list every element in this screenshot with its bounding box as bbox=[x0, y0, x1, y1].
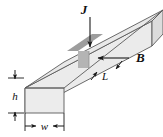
height-label: h bbox=[12, 90, 18, 102]
shaded-slab-front-face bbox=[78, 51, 89, 68]
bar-near-end-face bbox=[25, 88, 64, 113]
magnetic-field-label: B bbox=[135, 50, 145, 65]
hall-effect-figure: J B L h bbox=[0, 0, 163, 137]
current-density-label: J bbox=[80, 2, 88, 17]
length-label: L bbox=[101, 70, 108, 82]
width-label: w bbox=[41, 120, 49, 132]
figure-canvas: J B L h bbox=[0, 0, 163, 137]
